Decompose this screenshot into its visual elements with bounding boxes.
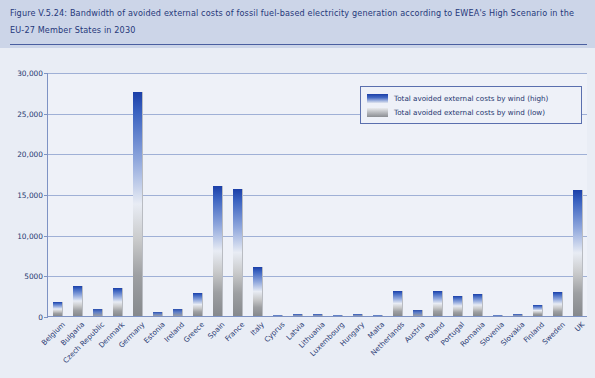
y-tick-label: 20,000: [17, 150, 43, 159]
y-tick-mark: [44, 276, 48, 277]
y-tick-label: 0: [38, 313, 43, 322]
y-tick-label: 10,000: [17, 231, 43, 240]
title-divider: [10, 44, 587, 45]
x-axis-tick-labels: BelgiumBulgariaCzech RepublicDenmarkGerm…: [47, 318, 587, 378]
figure-page: Figure V.5.24: Bandwidth of avoided exte…: [0, 0, 595, 378]
y-tick-mark: [44, 73, 48, 74]
x-tick-label: Cyprus: [262, 320, 286, 344]
gridline: [48, 236, 587, 237]
bar: [333, 315, 343, 317]
bar: [73, 286, 83, 316]
legend-label-high: Total avoided external costs by wind (hi…: [394, 94, 548, 103]
gridline: [48, 195, 587, 196]
legend-swatch-low-icon: [367, 108, 388, 117]
bar: [293, 314, 303, 316]
bar: [313, 314, 323, 316]
y-tick-mark: [44, 236, 48, 237]
bar: [153, 312, 163, 316]
bar: [173, 309, 183, 316]
bar: [113, 288, 123, 316]
gridline: [48, 276, 587, 277]
bar: [433, 291, 443, 316]
y-tick-label: 30,000: [17, 69, 43, 78]
bar: [233, 189, 243, 316]
bar: [573, 190, 583, 316]
x-tick-label: UK: [573, 320, 586, 333]
gridline: [48, 154, 587, 155]
x-tick-label: Austria: [402, 320, 426, 344]
bar: [273, 315, 283, 317]
legend-swatch-high-icon: [367, 94, 388, 103]
bar: [553, 292, 563, 316]
bar: [413, 310, 423, 316]
x-tick-label: Greece: [181, 320, 205, 344]
bar: [473, 294, 483, 316]
gridline: [48, 73, 587, 74]
bar: [253, 267, 263, 316]
bar: [353, 314, 363, 316]
chart-legend: Total avoided external costs by wind (hi…: [360, 86, 582, 124]
legend-item-low: Total avoided external costs by wind (lo…: [367, 105, 575, 119]
bar: [493, 315, 503, 317]
y-tick-label: 5000: [24, 272, 43, 281]
bar: [513, 314, 523, 316]
y-tick-mark: [44, 114, 48, 115]
bar: [93, 309, 103, 316]
bar: [213, 186, 223, 316]
legend-item-high: Total avoided external costs by wind (hi…: [367, 91, 575, 105]
x-tick-label: France: [223, 320, 246, 343]
y-tick-mark: [44, 154, 48, 155]
x-tick-label: Ireland: [162, 320, 186, 344]
bar: [133, 92, 143, 316]
bar: [373, 315, 383, 317]
bar: [53, 302, 63, 316]
x-tick-label: Estonia: [142, 320, 167, 345]
bar: [393, 291, 403, 316]
bar: [533, 305, 543, 316]
legend-label-low: Total avoided external costs by wind (lo…: [394, 108, 545, 117]
figure-title: Figure V.5.24: Bandwidth of avoided exte…: [10, 5, 588, 39]
y-tick-label: 25,000: [17, 109, 43, 118]
bar: [193, 293, 203, 316]
y-tick-label: 15,000: [17, 191, 43, 200]
y-tick-mark: [44, 195, 48, 196]
figure-header-band: Figure V.5.24: Bandwidth of avoided exte…: [0, 0, 595, 48]
bar: [453, 296, 463, 316]
chart-panel: Avoided external costs (€2007m/yr) 30,00…: [0, 48, 595, 378]
